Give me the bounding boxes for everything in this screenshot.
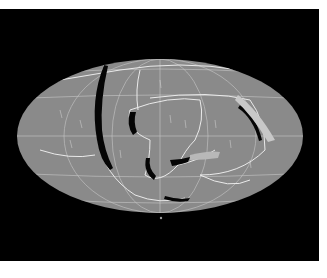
globe-map [0,0,327,278]
caption [40,264,310,276]
pole-marker [160,217,162,219]
